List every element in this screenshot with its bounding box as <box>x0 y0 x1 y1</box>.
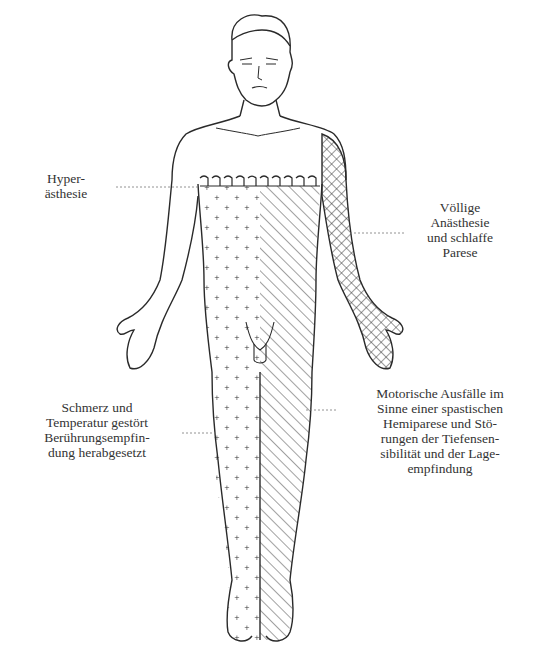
arm-right <box>322 134 403 369</box>
label-complete-anaesthesia: Völlige Anästhesie und schlaffe Parese <box>410 200 510 260</box>
arm-left <box>117 180 198 369</box>
label-line: Hyper- <box>18 171 114 186</box>
label-line: Schmerz und <box>12 400 182 415</box>
label-line: Parese <box>410 245 510 260</box>
label-line: sibilität und der Lage- <box>340 446 540 461</box>
label-line: Temperatur gestört <box>12 415 182 430</box>
label-line: Anästhesie <box>410 215 510 230</box>
label-line: Völlige <box>410 200 510 215</box>
nose <box>258 66 262 80</box>
head-outline <box>228 15 292 106</box>
label-line: Hemiparese und Stö- <box>340 416 540 431</box>
hair-line <box>232 30 290 46</box>
hyperaesthesia-band <box>200 176 320 186</box>
label-line: rungen der Tiefensen- <box>340 431 540 446</box>
mouth <box>252 87 267 89</box>
label-pain-temperature: Schmerz und Temperatur gestört Berührung… <box>12 400 182 460</box>
label-line: Motorische Ausfälle im <box>340 386 540 401</box>
eyebrows <box>240 58 278 60</box>
label-line: ästhesie <box>18 186 114 201</box>
shoulder-left <box>172 116 240 180</box>
label-hyperaesthesia: Hyper- ästhesie <box>18 171 114 201</box>
label-line: Berührungsempfin- <box>12 430 182 445</box>
clavicles <box>216 128 300 136</box>
label-line: empfindung <box>340 461 540 476</box>
region-left-crosses <box>200 186 260 640</box>
label-line: und schlaffe <box>410 230 510 245</box>
label-line: Sinne einer spastischen <box>340 401 540 416</box>
label-motor-deficits: Motorische Ausfälle im Sinne einer spast… <box>340 386 540 476</box>
body-diagram: + + <box>0 0 549 654</box>
label-line: dung herabgesetzt <box>12 445 182 460</box>
